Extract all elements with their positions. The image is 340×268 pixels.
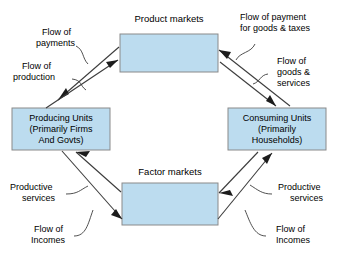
leader-incomes-right: [245, 210, 266, 236]
leader-payment-goods-taxes: [236, 44, 255, 60]
leader-payments: [76, 46, 88, 64]
product-markets-box[interactable]: [120, 34, 218, 72]
diagram-canvas: Product markets Factor markets Producing…: [0, 0, 340, 268]
leader-incomes-left: [74, 210, 93, 236]
circular-flow-diagram: Product markets Factor markets Producing…: [0, 0, 340, 268]
factor-markets-title: Factor markets: [138, 166, 202, 177]
producing-units-line3: And Govts): [38, 135, 83, 145]
leader-production: [72, 79, 86, 90]
label-goods-services-line2: goods &: [277, 67, 310, 77]
label-incomes-left-line1: Flow of: [34, 224, 64, 234]
flow-arrow-goods-services: [220, 62, 276, 106]
leader-productive-services-left: [66, 186, 88, 194]
consuming-units-line1: Consuming Units: [243, 113, 312, 123]
label-payment-goods-taxes-line1: Flow of payment: [240, 12, 307, 22]
label-goods-services-line3: services: [277, 78, 311, 88]
consuming-units-line2: (Primarily: [258, 124, 296, 134]
consuming-units-line3: Households): [252, 135, 303, 145]
label-productive-services-left-line2: services: [22, 193, 56, 203]
label-payments-line2: payments: [36, 38, 76, 48]
label-incomes-right-line1: Flow of: [276, 224, 306, 234]
flow-arrow-incomes-left: [76, 151, 121, 192]
label-payments-line1: Flow of: [42, 27, 72, 37]
flow-arrow-production: [46, 60, 118, 108]
flow-arrow-payments: [58, 47, 119, 100]
label-incomes-right-line2: Incomes: [276, 235, 311, 245]
producing-units-line1: Producing Units: [29, 113, 93, 123]
label-goods-services-line1: Flow of: [277, 56, 307, 66]
factor-markets-box[interactable]: [122, 183, 218, 225]
label-productive-services-right-line1: Productive: [278, 182, 321, 192]
label-incomes-left-line2: Incomes: [31, 235, 66, 245]
leader-productive-services-right: [250, 185, 272, 194]
label-payment-goods-taxes-line2: for goods & taxes: [240, 23, 311, 33]
label-production-line2: production: [13, 72, 55, 82]
flow-arrow-incomes-right: [219, 152, 258, 196]
label-production-line1: Flow of: [22, 61, 52, 71]
product-markets-title: Product markets: [134, 13, 203, 24]
producing-units-line2: (Primarily Firms: [30, 124, 93, 134]
label-productive-services-left-line1: Productive: [10, 182, 53, 192]
label-productive-services-right-line2: services: [290, 193, 324, 203]
